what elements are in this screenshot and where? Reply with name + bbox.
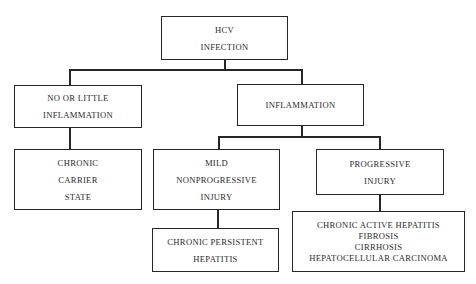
node-label: HEPATOCELLULAR CARCINOMA bbox=[309, 253, 448, 263]
connector-to-outcomes bbox=[379, 195, 381, 211]
node-label: FIBROSIS bbox=[358, 231, 398, 241]
node-label: INFECTION bbox=[200, 42, 248, 52]
connector-to-no-inflammation bbox=[69, 69, 71, 85]
node-label: INFLAMMATION bbox=[266, 100, 336, 110]
node-label: CHRONIC bbox=[58, 158, 99, 168]
node-label: CHRONIC ACTIVE HEPATITIS bbox=[317, 220, 440, 230]
node-label: MILD bbox=[205, 158, 228, 168]
node-progressive-outcomes: CHRONIC ACTIVE HEPATITIS FIBROSIS CIRRHO… bbox=[292, 211, 465, 272]
node-progressive-injury: PROGRESSIVE INJURY bbox=[316, 149, 444, 195]
node-label: HEPATITIS bbox=[193, 254, 237, 264]
node-chronic-persistent-hepatitis: CHRONIC PERSISTENT HEPATITIS bbox=[152, 228, 279, 272]
node-inflammation: INFLAMMATION bbox=[237, 84, 364, 126]
connector-level1-bar bbox=[69, 69, 302, 71]
node-label: CARRIER bbox=[58, 175, 97, 185]
node-chronic-carrier-state: CHRONIC CARRIER STATE bbox=[14, 149, 142, 210]
connector-to-progressive bbox=[379, 136, 381, 149]
node-mild-nonprogressive-injury: MILD NONPROGRESSIVE INJURY bbox=[153, 149, 280, 210]
connector-level2-bar bbox=[218, 136, 381, 138]
node-label: INJURY bbox=[364, 176, 396, 186]
node-label: HCV bbox=[215, 25, 234, 35]
node-label: CHRONIC PERSISTENT bbox=[167, 237, 263, 247]
node-label: NONPROGRESSIVE bbox=[176, 175, 257, 185]
node-hcv-infection: HCV INFECTION bbox=[161, 16, 288, 60]
node-label: STATE bbox=[65, 192, 92, 202]
node-label: INJURY bbox=[201, 192, 233, 202]
node-label: INFLAMMATION bbox=[43, 110, 113, 120]
connector-to-inflammation bbox=[301, 69, 303, 85]
node-label: CIRRHOSIS bbox=[355, 242, 403, 252]
connector-to-mild bbox=[218, 136, 220, 149]
connector-to-persistent bbox=[217, 210, 219, 228]
node-no-or-little-inflammation: NO OR LITTLE INFLAMMATION bbox=[14, 85, 142, 128]
node-label: PROGRESSIVE bbox=[349, 159, 410, 169]
connector-to-carrier bbox=[69, 128, 71, 149]
node-label: NO OR LITTLE bbox=[47, 93, 108, 103]
